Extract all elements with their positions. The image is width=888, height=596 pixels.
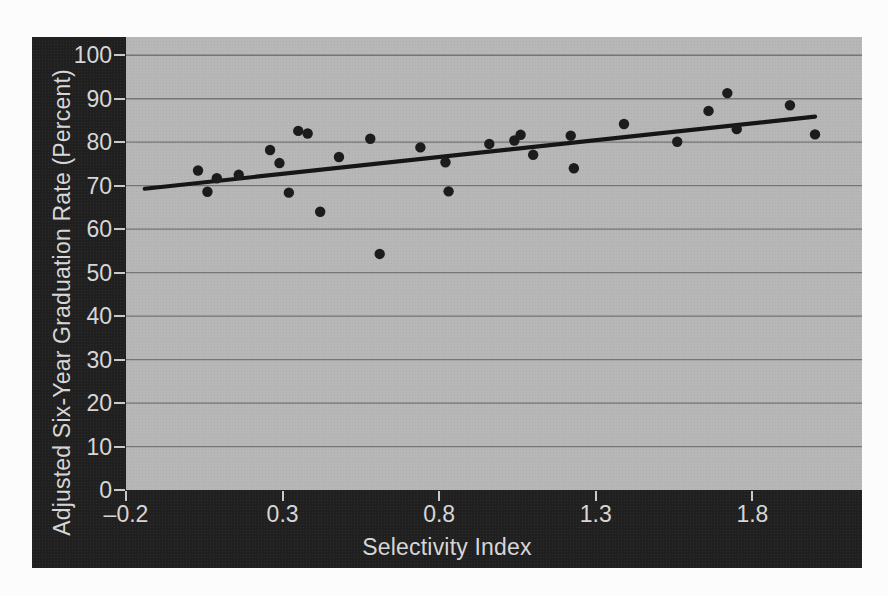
scatter-point bbox=[193, 165, 203, 175]
scatter-point bbox=[703, 106, 713, 116]
y-tick-mark bbox=[114, 98, 125, 100]
scatter-point bbox=[374, 249, 384, 259]
y-tick-label: 40 bbox=[32, 303, 112, 329]
y-tick-mark bbox=[114, 228, 125, 230]
scatter-point bbox=[722, 88, 732, 98]
y-tick-label: 80 bbox=[32, 129, 112, 155]
x-tick-mark bbox=[125, 491, 127, 501]
y-tick-mark bbox=[114, 359, 125, 361]
scatter-point bbox=[528, 150, 538, 160]
scatter-point bbox=[202, 187, 212, 197]
trend-line bbox=[145, 117, 815, 189]
scatter-point bbox=[732, 124, 742, 134]
scatter-point bbox=[515, 130, 525, 140]
scatter-point bbox=[484, 139, 494, 149]
scatter-point bbox=[569, 163, 579, 173]
y-tick-label: 50 bbox=[32, 260, 112, 286]
x-tick-mark bbox=[595, 491, 597, 501]
scatter-point bbox=[810, 129, 820, 139]
y-tick-mark bbox=[114, 402, 125, 404]
x-tick-label: –0.2 bbox=[81, 501, 171, 528]
scatter-point bbox=[284, 187, 294, 197]
x-tick-label: 1.8 bbox=[707, 501, 797, 528]
y-tick-label: 70 bbox=[32, 173, 112, 199]
y-tick-label: 90 bbox=[32, 86, 112, 112]
plot-canvas bbox=[126, 37, 862, 490]
scatter-point bbox=[785, 100, 795, 110]
y-tick-label: 20 bbox=[32, 390, 112, 416]
y-tick-mark bbox=[114, 54, 125, 56]
y-tick-mark bbox=[114, 489, 125, 491]
scatter-point bbox=[315, 207, 325, 217]
scatter-point bbox=[265, 145, 275, 155]
scatter-point bbox=[619, 119, 629, 129]
y-tick-label: 100 bbox=[32, 42, 112, 68]
plot-area bbox=[126, 37, 862, 490]
scatter-chart: Adjusted Six-Year Graduation Rate (Perce… bbox=[32, 37, 862, 568]
y-tick-mark bbox=[114, 446, 125, 448]
y-tick-mark bbox=[114, 141, 125, 143]
scatter-point bbox=[566, 130, 576, 140]
scatter-point bbox=[293, 126, 303, 136]
scatter-point bbox=[440, 157, 450, 167]
scatter-point bbox=[274, 158, 284, 168]
scatter-point bbox=[415, 142, 425, 152]
scatter-point bbox=[334, 152, 344, 162]
x-tick-mark bbox=[282, 491, 284, 501]
x-tick-label: 1.3 bbox=[551, 501, 641, 528]
y-tick-label: 0 bbox=[32, 477, 112, 503]
x-tick-mark bbox=[751, 491, 753, 501]
x-tick-label: 0.3 bbox=[238, 501, 328, 528]
scatter-point bbox=[672, 137, 682, 147]
y-tick-label: 30 bbox=[32, 347, 112, 373]
scatter-point bbox=[212, 173, 222, 183]
y-tick-label: 10 bbox=[32, 434, 112, 460]
scatter-point bbox=[365, 134, 375, 144]
y-tick-mark bbox=[114, 315, 125, 317]
y-tick-label: 60 bbox=[32, 216, 112, 242]
x-axis-title: Selectivity Index bbox=[32, 534, 862, 561]
y-tick-mark bbox=[114, 272, 125, 274]
scatter-point bbox=[302, 128, 312, 138]
x-tick-mark bbox=[438, 491, 440, 501]
scatter-point bbox=[234, 170, 244, 180]
y-tick-mark bbox=[114, 185, 125, 187]
scatter-point bbox=[443, 186, 453, 196]
x-tick-label: 0.8 bbox=[394, 501, 484, 528]
